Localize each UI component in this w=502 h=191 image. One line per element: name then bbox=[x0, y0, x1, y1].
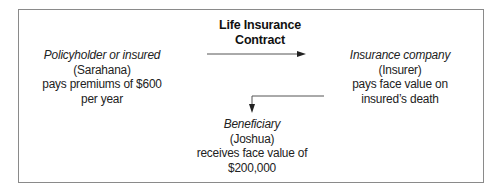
contract-arrow-icon bbox=[207, 51, 306, 57]
arrows-layer bbox=[0, 0, 502, 191]
payout-arrow-icon bbox=[249, 96, 324, 113]
